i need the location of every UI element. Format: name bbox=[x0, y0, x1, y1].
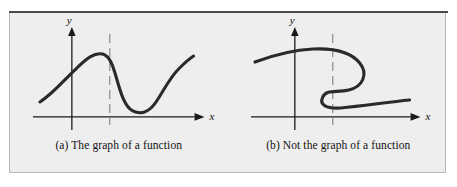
y-axis-arrowhead-b bbox=[291, 27, 299, 36]
vertical-line-test-figure: x y (a) The graph of a function x bbox=[0, 0, 457, 187]
x-axis-arrowhead-b bbox=[410, 113, 420, 121]
function-curve-a bbox=[40, 54, 194, 113]
panel-b: x y (b) Not the graph of a function bbox=[229, 13, 449, 175]
y-axis-arrowhead-a bbox=[68, 27, 76, 36]
panel-a-plot: x y bbox=[9, 13, 229, 139]
x-axis-label-a: x bbox=[209, 110, 215, 122]
panel-a-caption: (a) The graph of a function bbox=[9, 139, 229, 151]
y-axis-label-b: y bbox=[288, 14, 294, 26]
figure-panels: x y (a) The graph of a function x bbox=[9, 13, 448, 175]
y-axis-label-a: y bbox=[66, 14, 72, 26]
panel-b-caption: (b) Not the graph of a function bbox=[229, 139, 449, 151]
x-axis-label-b: x bbox=[424, 110, 430, 122]
x-axis-arrowhead-a bbox=[195, 113, 205, 121]
panel-a: x y (a) The graph of a function bbox=[9, 13, 229, 175]
panel-b-plot: x y bbox=[229, 13, 449, 139]
